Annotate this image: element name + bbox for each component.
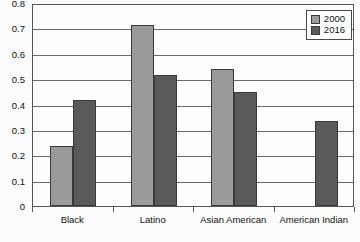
bar-2000-latino — [131, 25, 154, 206]
x-axis-label: Asian American — [200, 214, 266, 225]
y-axis-tick-label: 0.5 — [0, 75, 25, 85]
bar-2016-black — [73, 100, 96, 206]
x-axis-tick — [354, 207, 355, 212]
bar-chart: 00.10.20.30.40.50.60.70.8 BlackLatinoAsi… — [0, 0, 360, 242]
bar-group — [114, 5, 195, 206]
bar-group — [33, 5, 114, 206]
bar-2000-asian-american — [211, 69, 234, 206]
bar-2016-latino — [154, 75, 177, 206]
y-axis-tick-label: 0.1 — [0, 177, 25, 187]
x-axis-tick — [274, 207, 275, 212]
bar-2000-black — [50, 146, 73, 206]
y-axis-tick-label: 0.2 — [0, 152, 25, 162]
y-axis-tick-label: 0.7 — [0, 25, 25, 35]
legend-item: 2016 — [311, 25, 345, 36]
legend: 20002016 — [306, 10, 352, 40]
y-axis-tick-label: 0.8 — [0, 0, 25, 9]
bar-group — [194, 5, 275, 206]
bar-2016-american-indian — [315, 121, 338, 206]
y-axis-tick-label: 0 — [0, 202, 25, 212]
x-axis-tick — [113, 207, 114, 212]
y-axis-tick-label: 0.4 — [0, 101, 25, 111]
bar-2016-asian-american — [234, 92, 257, 206]
x-axis-label: Latino — [140, 214, 166, 225]
y-axis-labels: 00.10.20.30.40.50.60.70.8 — [0, 4, 28, 207]
x-axis-ticks — [32, 207, 354, 213]
x-axis-labels: BlackLatinoAsian AmericanAmerican Indian — [32, 214, 354, 234]
legend-swatch-icon — [311, 26, 320, 35]
x-axis-tick — [193, 207, 194, 212]
legend-swatch-icon — [311, 15, 320, 24]
legend-label: 2016 — [324, 25, 345, 36]
x-axis-label: American Indian — [279, 214, 348, 225]
y-axis-tick-label: 0.3 — [0, 126, 25, 136]
x-axis-label: Black — [61, 214, 84, 225]
x-axis-tick — [32, 207, 33, 212]
y-axis-tick-label: 0.6 — [0, 50, 25, 60]
